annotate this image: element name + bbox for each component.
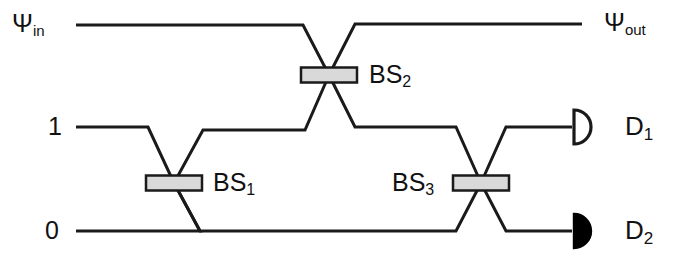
label-port-0: 0 <box>45 218 59 243</box>
path-bs1-to-bs2 <box>174 75 329 183</box>
path-bs2-to-bs3 <box>329 75 481 183</box>
beamsplitter-bs3 <box>453 176 509 191</box>
interferometer-diagram: Ψin Ψout 1 0 BS1 BS2 BS3 D1 D2 <box>0 0 684 259</box>
label-d2-sub: 2 <box>644 229 653 248</box>
label-port-1: 1 <box>48 114 62 139</box>
beamsplitter-bs1 <box>146 176 202 191</box>
label-d1-base: D <box>625 111 644 141</box>
label-d1: D1 <box>625 113 653 143</box>
label-psi-out-base: Ψ <box>604 8 625 36</box>
optical-paths-canvas <box>0 0 684 259</box>
beamsplitter-bs2 <box>301 68 357 83</box>
label-psi-in-sub: in <box>33 22 45 39</box>
label-psi-out-sub: out <box>625 21 646 38</box>
label-bs2: BS2 <box>369 62 411 90</box>
label-bs3: BS3 <box>392 170 434 198</box>
label-bs2-sub: 2 <box>402 73 411 90</box>
label-bs1-base: BS <box>213 168 246 196</box>
label-bs3-base: BS <box>392 168 425 196</box>
detector-d2-shape <box>574 214 591 248</box>
detector-d1-shape <box>574 110 591 144</box>
label-d1-sub: 1 <box>644 125 653 144</box>
path-bs2-to-psi-out <box>329 24 582 75</box>
path-psi-in-to-bs2 <box>76 25 329 75</box>
label-bs1: BS1 <box>213 170 255 198</box>
label-psi-in: Ψin <box>12 11 45 38</box>
label-bs3-sub: 3 <box>425 181 434 198</box>
label-d2: D2 <box>625 217 653 247</box>
label-bs2-base: BS <box>369 60 402 88</box>
label-psi-in-base: Ψ <box>12 9 33 37</box>
label-psi-out: Ψout <box>604 10 646 37</box>
label-bs1-sub: 1 <box>246 181 255 198</box>
label-d2-base: D <box>625 215 644 245</box>
